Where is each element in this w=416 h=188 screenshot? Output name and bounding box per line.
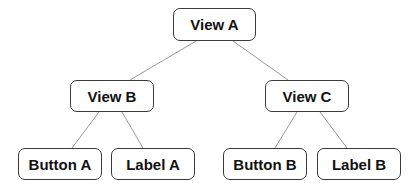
node-view-c: View C [265,80,349,112]
edge-view-c-button-b [275,112,297,148]
node-view-b: View B [70,80,154,112]
node-view-a: View A [173,8,256,41]
node-button-a: Button A [18,148,102,180]
node-button-b: Button B [223,148,307,180]
node-label-a: Label A [111,148,195,180]
edge-view-a-view-c [233,41,288,80]
edge-view-a-view-b [130,41,196,80]
edge-view-c-label-b [320,112,347,148]
edge-view-b-button-a [72,112,99,148]
edge-view-b-label-a [122,112,143,148]
node-label-b: Label B [317,148,401,180]
